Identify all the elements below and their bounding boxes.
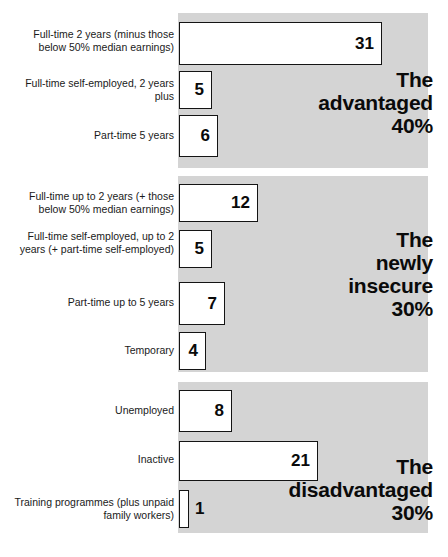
bar-value-label: 5 (178, 81, 204, 98)
category-label: Part-time 5 years (4, 129, 174, 142)
bar-value-label: 8 (198, 402, 224, 419)
category-label: Full-time 2 years (minus those below 50%… (4, 28, 174, 54)
category-label: Part-time up to 5 years (4, 296, 174, 309)
category-label: Full-time self-employed, up to 2 years (… (4, 230, 174, 256)
bar-value-label: 1 (195, 500, 204, 517)
bar-value-label: 12 (224, 194, 250, 211)
category-label: Full-time up to 2 years (+ those below 5… (4, 190, 174, 216)
bar-value-label: 4 (172, 342, 198, 359)
bar-value-label: 21 (284, 452, 310, 469)
bar-value-label: 5 (178, 240, 204, 257)
category-label: Training programmes (plus unpaid family … (4, 496, 174, 522)
bar (179, 490, 189, 528)
bar-value-label: 31 (348, 35, 374, 52)
category-label: Temporary (4, 344, 174, 357)
category-label: Inactive (4, 453, 174, 466)
category-label: Full-time self-employed, 2 years plus (4, 77, 174, 103)
panel-heading-advantaged: The advantaged 40% (318, 68, 433, 137)
employment-security-bar-chart: The advantaged 40%Full-time 2 years (min… (0, 0, 448, 557)
bar-value-label: 6 (184, 127, 210, 144)
panel-heading-newly-insecure: The newly insecure 30% (348, 228, 433, 320)
category-label: Unemployed (4, 404, 174, 417)
bar-value-label: 7 (191, 295, 217, 312)
